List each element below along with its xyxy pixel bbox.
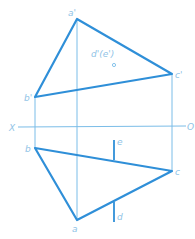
- label-d: d: [117, 212, 123, 222]
- label-a-prime: a': [68, 8, 76, 18]
- xo-axis: [18, 126, 186, 127]
- label-c-prime: c': [175, 70, 182, 80]
- label-b-prime: b': [24, 93, 32, 103]
- label-e: e: [117, 137, 123, 147]
- label-de-prime: d'(e'): [91, 49, 114, 59]
- label-a: a: [72, 224, 78, 234]
- label-c: c: [175, 167, 180, 177]
- projection-diagram: a' b' c' d'(e') X O b c a e d: [0, 0, 195, 239]
- top-view-triangle: [35, 148, 172, 220]
- label-axis-x: X: [8, 123, 16, 133]
- label-axis-o: O: [187, 122, 194, 132]
- label-b: b: [25, 144, 31, 154]
- de-point-marker: [112, 63, 115, 66]
